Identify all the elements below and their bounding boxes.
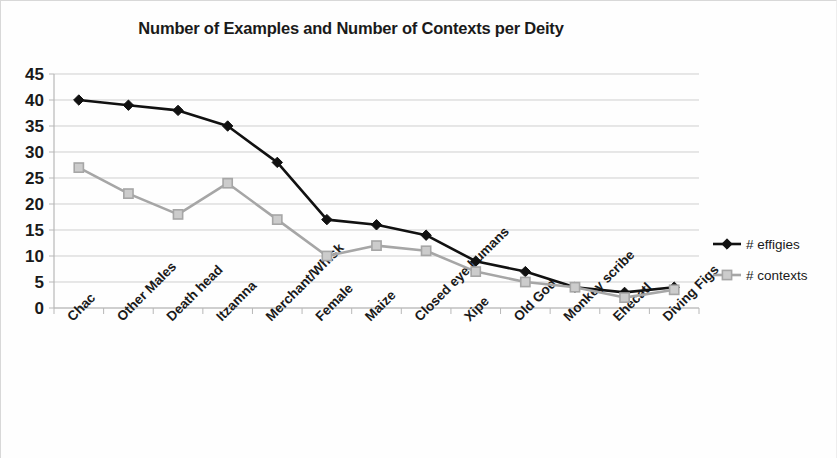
square-marker-icon [620, 293, 629, 302]
y-axis-tick-label: 45 [25, 65, 44, 84]
square-marker-icon [74, 163, 83, 172]
chart-legend: # effigies# contexts [713, 237, 808, 283]
x-axis-tick-label: Maize [362, 287, 399, 324]
legend-label: # contexts [746, 268, 808, 283]
y-axis-tick-label: 25 [25, 169, 44, 188]
diamond-marker-icon [371, 220, 381, 230]
x-axis-tick-label: Ehecatl [610, 280, 655, 325]
square-marker-icon [422, 246, 431, 255]
square-marker-icon [124, 189, 133, 198]
legend-label: # effigies [746, 237, 800, 252]
square-marker-icon [670, 285, 679, 294]
x-axis-tick-labels: ChacOther MalesDeath headItzamnaMerchant… [64, 224, 721, 324]
square-marker-icon [471, 267, 480, 276]
y-axis-tick-label: 0 [35, 299, 44, 318]
diamond-marker-icon [123, 100, 133, 110]
square-marker-icon [570, 283, 579, 292]
y-axis-tick-label: 15 [25, 221, 44, 240]
y-axis-tick-label: 10 [25, 247, 44, 266]
x-axis-tick-label: Chac [64, 290, 98, 324]
diamond-marker-icon [421, 230, 431, 240]
y-axis-tick-label: 20 [25, 195, 44, 214]
square-marker-icon [322, 251, 331, 260]
square-marker-icon [521, 277, 530, 286]
diamond-marker-icon [173, 105, 183, 115]
x-axis-tick-label: Female [312, 280, 356, 324]
y-axis-tick-label: 40 [25, 91, 44, 110]
diamond-marker-icon [520, 266, 530, 276]
chart-plot: 051015202530354045 ChacOther MalesDeath … [1, 1, 837, 458]
diamond-marker-icon [74, 95, 84, 105]
square-marker-icon [273, 215, 282, 224]
x-axis-tick-label: Itzamna [213, 278, 259, 324]
y-axis-tick-label: 30 [25, 143, 44, 162]
square-marker-icon [223, 179, 232, 188]
square-marker-icon [372, 241, 381, 250]
y-axis-tick-label: 35 [25, 117, 44, 136]
square-marker-icon [722, 270, 731, 279]
square-marker-icon [173, 210, 182, 219]
chart-container: Number of Examples and Number of Context… [0, 0, 837, 458]
y-axis-tick-labels: 051015202530354045 [25, 65, 44, 318]
y-axis-tick-label: 5 [35, 273, 44, 292]
diamond-marker-icon [722, 239, 732, 249]
